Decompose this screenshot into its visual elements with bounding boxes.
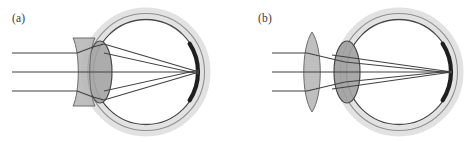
ray-inner-bottom-b (345, 71, 452, 82)
panel-a-label: (a) (12, 12, 25, 25)
panel-b-label: (b) (258, 12, 272, 25)
ray-inner-top-b (345, 62, 452, 73)
panel-b: (b) (258, 12, 458, 131)
figure-canvas: (a) (b) (0, 0, 469, 142)
optics-figure: (a) (b) (0, 0, 469, 142)
panel-a: (a) (12, 12, 205, 131)
